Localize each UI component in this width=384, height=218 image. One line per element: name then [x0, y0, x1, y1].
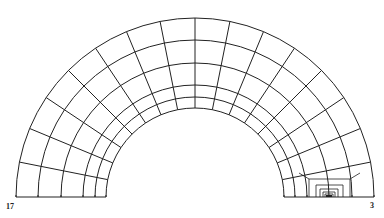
mesh-diagram — [0, 0, 384, 218]
mesh-radial-line — [258, 70, 322, 134]
mesh-arc — [106, 108, 284, 197]
mesh-radial-line — [282, 162, 370, 180]
crack-tip-marker — [326, 195, 332, 197]
mesh-radial-line — [160, 21, 178, 109]
mesh-radial-line — [212, 21, 230, 109]
mesh-radial-line — [68, 70, 132, 134]
refined-transition-line — [350, 173, 360, 179]
node-label-left: 17 — [6, 203, 14, 211]
mesh-radial-line — [19, 162, 107, 180]
mesh-arc — [95, 97, 295, 197]
node-label-right: 3 — [370, 202, 374, 210]
